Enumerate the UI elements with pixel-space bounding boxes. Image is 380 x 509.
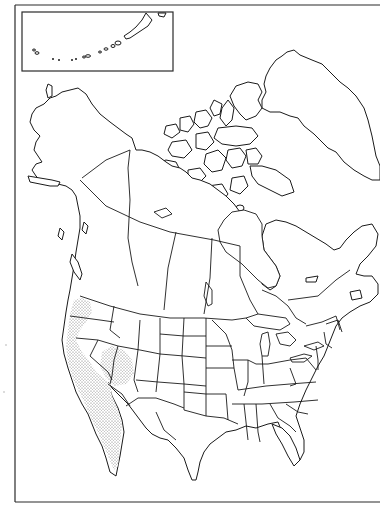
north-america-map: [0, 0, 380, 509]
aleutian-inset: [22, 12, 173, 71]
greenland: [262, 50, 380, 180]
